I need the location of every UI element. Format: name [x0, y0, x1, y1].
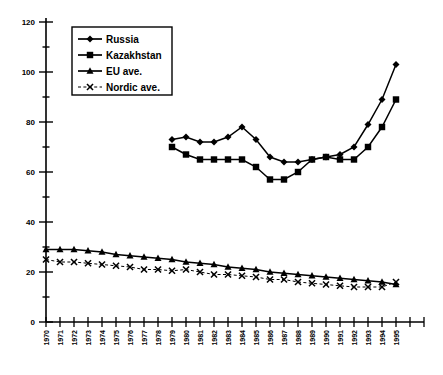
- series-eu-ave: [43, 246, 400, 287]
- y-tick-label: 60: [26, 168, 35, 177]
- y-tick-label: 20: [26, 268, 35, 277]
- x-tick-label: 1974: [99, 330, 106, 346]
- x-tick-label: 1980: [183, 330, 190, 346]
- x-tick-label: 1994: [379, 330, 386, 346]
- x-tick-label: 1972: [71, 330, 78, 346]
- x-tick-label: 1973: [85, 330, 92, 346]
- x-tick-label: 1991: [337, 330, 344, 346]
- chart-canvas: 020406080100120 197019711972197319741975…: [0, 0, 443, 375]
- x-tick-label: 1993: [365, 330, 372, 346]
- y-tick-label: 100: [22, 68, 36, 77]
- legend-label: Kazakhstan: [106, 50, 162, 61]
- legend-label: Nordic ave.: [106, 82, 160, 93]
- x-tick-label: 1982: [211, 330, 218, 346]
- series-kazakhstan: [169, 96, 399, 182]
- x-tick-label: 1989: [309, 330, 316, 346]
- legend-label: Russia: [106, 34, 139, 45]
- x-tick-label: 1978: [155, 330, 162, 346]
- x-tick-label: 1990: [323, 330, 330, 346]
- x-tick-label: 1975: [113, 330, 120, 346]
- y-tick-label: 80: [26, 118, 35, 127]
- x-tick-label: 1970: [43, 330, 50, 346]
- legend-label: EU ave.: [106, 66, 142, 77]
- x-axis: 1970197119721973197419751976197719781979…: [43, 317, 424, 346]
- y-axis: 020406080100120: [22, 18, 53, 327]
- x-tick-label: 1977: [141, 330, 148, 346]
- x-tick-label: 1995: [393, 330, 400, 346]
- x-tick-label: 1976: [127, 330, 134, 346]
- x-tick-label: 1988: [295, 330, 302, 346]
- line-chart: 020406080100120 197019711972197319741975…: [0, 0, 443, 375]
- x-tick-label: 1981: [197, 330, 204, 346]
- x-tick-label: 1985: [253, 330, 260, 346]
- x-tick-label: 1987: [281, 330, 288, 346]
- x-tick-label: 1986: [267, 330, 274, 346]
- x-tick-label: 1984: [239, 330, 246, 346]
- y-tick-label: 120: [22, 18, 36, 27]
- x-tick-label: 1971: [57, 330, 64, 346]
- y-tick-label: 40: [26, 218, 35, 227]
- series-nordic-ave: [43, 256, 399, 290]
- x-tick-label: 1992: [351, 330, 358, 346]
- y-tick-label: 0: [31, 318, 36, 327]
- x-tick-label: 1979: [169, 330, 176, 346]
- chart-legend: RussiaKazakhstanEU ave.Nordic ave.: [72, 27, 172, 95]
- x-tick-label: 1983: [225, 330, 232, 346]
